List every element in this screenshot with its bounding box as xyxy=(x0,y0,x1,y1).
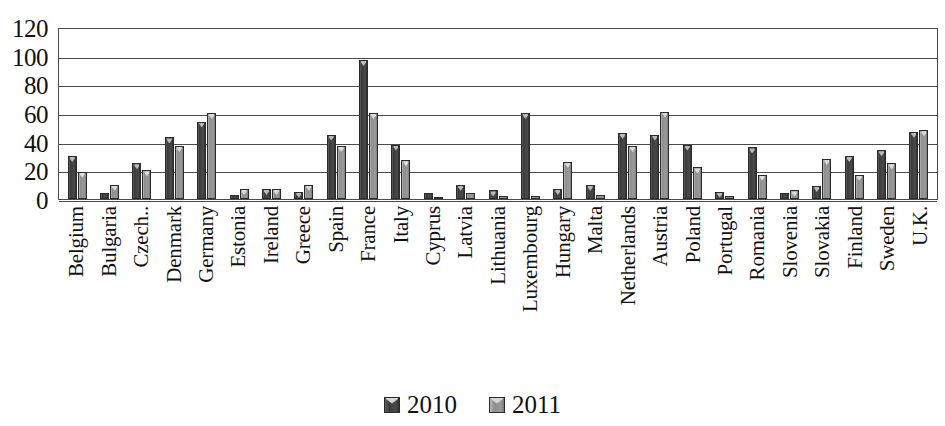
bar xyxy=(68,156,77,199)
bar xyxy=(165,137,174,199)
bar xyxy=(304,185,313,199)
x-axis-label-slot: Spain xyxy=(320,202,352,332)
x-axis-label: Denmark xyxy=(163,206,184,283)
bar xyxy=(100,193,109,199)
bar-highlight xyxy=(209,114,214,119)
y-axis-tick: 100 xyxy=(12,44,48,69)
bar xyxy=(369,113,378,199)
bar xyxy=(780,193,789,199)
legend-item[interactable]: 2011 xyxy=(489,392,561,417)
bar-highlight xyxy=(306,186,311,191)
bar-highlight xyxy=(177,147,182,152)
x-axis-label: Austria xyxy=(650,206,671,266)
y-axis-tick: 120 xyxy=(12,16,48,41)
bar-groups xyxy=(59,29,937,199)
x-axis-label: Hungary xyxy=(552,206,573,278)
bar-highlight xyxy=(70,157,75,162)
y-axis: 120100806040200 xyxy=(0,19,52,209)
bar-highlight xyxy=(889,164,894,169)
bar xyxy=(596,195,605,199)
y-axis-tick: 40 xyxy=(24,130,48,155)
bar-highlight xyxy=(911,133,916,138)
legend-item[interactable]: 2010 xyxy=(384,392,457,417)
bar-highlight xyxy=(371,114,376,119)
bar-highlight xyxy=(403,161,408,166)
bar-highlight xyxy=(134,164,139,169)
x-axis-label: Luxembourg xyxy=(520,206,541,312)
bar-highlight xyxy=(296,193,301,198)
bar xyxy=(230,195,239,199)
bar-highlight xyxy=(329,136,334,141)
bar-highlight xyxy=(847,157,852,162)
bar-group xyxy=(191,29,223,199)
bar-group xyxy=(158,29,190,199)
bar xyxy=(424,193,433,199)
x-axis-label: Czech.. xyxy=(131,206,152,268)
bar-group xyxy=(320,29,352,199)
legend-label: 2011 xyxy=(512,392,561,417)
x-axis-label-slot: Malta xyxy=(579,202,611,332)
x-axis-label-slot: Slovenia xyxy=(774,202,806,332)
bar xyxy=(758,175,767,199)
bar-highlight xyxy=(339,147,344,152)
bar-highlight xyxy=(685,146,690,151)
bar xyxy=(466,193,475,199)
bar xyxy=(725,196,734,199)
x-axis-label-slot: Greece xyxy=(287,202,319,332)
x-axis-label-slot: Hungary xyxy=(547,202,579,332)
chart-legend: 20102011 xyxy=(0,392,945,417)
x-axis-label: Slovenia xyxy=(779,206,800,278)
x-axis-label: Finland xyxy=(844,206,865,269)
y-axis-tick: 20 xyxy=(24,159,48,184)
bar-highlight xyxy=(921,131,926,136)
x-axis-label: Malta xyxy=(585,206,606,254)
bar-group xyxy=(838,29,870,199)
plot-area xyxy=(58,28,938,200)
bar xyxy=(240,189,249,199)
x-axis-label-slot: Germany xyxy=(190,202,222,332)
x-axis-label: Bulgaria xyxy=(98,206,119,277)
bar xyxy=(262,189,271,199)
bar xyxy=(401,160,410,199)
x-axis-label: Netherlands xyxy=(617,206,638,305)
x-axis-label: Portugal xyxy=(714,206,735,276)
bar-group xyxy=(61,29,93,199)
x-axis-label-slot: Denmark xyxy=(157,202,189,332)
x-axis-label-slot: Sweden xyxy=(871,202,903,332)
x-axis-label: Greece xyxy=(293,206,314,264)
x-axis-label-slot: France xyxy=(352,202,384,332)
bar-highlight xyxy=(80,173,85,178)
bar-group xyxy=(514,29,546,199)
bar-highlight xyxy=(760,176,765,181)
bar-group xyxy=(741,29,773,199)
bar-highlight xyxy=(523,114,528,119)
bar-group xyxy=(450,29,482,199)
bar-group xyxy=(676,29,708,199)
x-axis-label-slot: Estonia xyxy=(222,202,254,332)
x-axis-label: Belgium xyxy=(66,206,87,277)
bar-highlight xyxy=(167,138,172,143)
x-axis-label: Spain xyxy=(325,206,346,253)
bar xyxy=(272,189,281,199)
bar-group xyxy=(806,29,838,199)
y-axis-tick: 80 xyxy=(24,73,48,98)
x-axis-label-slot: Finland xyxy=(839,202,871,332)
x-axis-label-slot: Portugal xyxy=(709,202,741,332)
bar xyxy=(618,133,627,199)
bar-highlight xyxy=(630,147,635,152)
legend-swatch-highlight xyxy=(386,398,398,404)
legend-swatch-icon xyxy=(384,397,400,413)
bar xyxy=(748,147,757,199)
bar xyxy=(812,186,821,199)
bar-highlight xyxy=(458,186,463,191)
bar-group xyxy=(385,29,417,199)
bar xyxy=(207,113,216,199)
bar xyxy=(683,145,692,199)
bar-highlight xyxy=(695,168,700,173)
bar xyxy=(142,170,151,199)
bar-group xyxy=(255,29,287,199)
x-axis-label: U.K. xyxy=(909,206,930,246)
bar-group xyxy=(352,29,384,199)
bar-highlight xyxy=(393,146,398,151)
x-axis-label: Lithuania xyxy=(487,206,508,285)
